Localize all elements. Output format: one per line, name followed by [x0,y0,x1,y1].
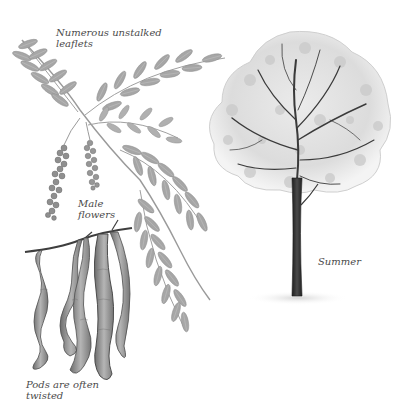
illustration [0,0,414,420]
caption-male-flowers: Male flowers [78,198,115,220]
caption-leaflets: Numerous unstalked leaflets [56,27,162,49]
caption-summer: Summer [318,256,361,267]
pods-drawing [25,220,132,380]
caption-pods: Pods are often twisted [26,379,99,401]
botanical-plate: Numerous unstalked leaflets Male flowers… [0,0,414,420]
summer-tree-drawing [210,31,391,305]
